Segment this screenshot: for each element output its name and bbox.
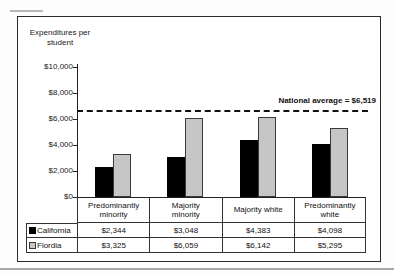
y-axis-title-line1: Expenditures per <box>22 28 98 38</box>
national-average-reference-line <box>77 110 368 112</box>
value-cell: $5,295 <box>294 238 366 253</box>
table-corner-cell <box>26 197 77 223</box>
y-axis-title: Expenditures per student <box>22 28 98 48</box>
category-label-line: Predominantly <box>304 201 355 210</box>
value-cell: $6,142 <box>222 238 294 253</box>
value-cell: $3,325 <box>77 238 149 253</box>
y-tick-mark <box>73 197 77 198</box>
category-cell: Predominantlyminority <box>77 197 149 223</box>
y-tick-mark <box>73 145 77 146</box>
california-bar <box>167 157 185 197</box>
category-cell: Majority white <box>222 197 294 223</box>
value-cell: $3,048 <box>149 223 221 238</box>
california-legend-swatch-icon <box>29 227 36 234</box>
y-tick-label: $8,000 <box>18 88 73 98</box>
y-tick-mark <box>73 93 77 94</box>
data-table: PredominantlyminorityMajorityminorityMaj… <box>26 197 366 253</box>
flordia-bar <box>185 118 203 197</box>
y-axis-title-line2: student <box>22 38 98 48</box>
california-bar <box>240 140 258 197</box>
y-tick-mark <box>73 119 77 120</box>
legend-series-name: California <box>37 226 71 235</box>
category-label-line: Predominantly <box>88 201 139 210</box>
category-label-line: minority <box>100 210 128 219</box>
y-tick-label: $10,000 <box>18 62 73 72</box>
category-cell: Predominantlywhite <box>294 197 366 223</box>
category-label-line: white <box>321 210 340 219</box>
value-cell: $2,344 <box>77 223 149 238</box>
y-tick-label: $6,000 <box>18 114 73 124</box>
national-average-label: National average = $6,519 <box>278 96 376 105</box>
california-bar <box>95 167 113 197</box>
value-cell: $4,383 <box>222 223 294 238</box>
flordia-bar <box>258 117 276 197</box>
y-tick-label: $2,000 <box>18 166 73 176</box>
category-label-line: Majority <box>172 201 200 210</box>
chart-frame: Expenditures per student $10,000$8,000$6… <box>17 16 381 262</box>
flordia-bar <box>330 128 348 197</box>
california-bar <box>312 144 330 197</box>
y-tick-mark <box>73 67 77 68</box>
category-label-line: Majority white <box>234 205 283 214</box>
scan-artifact-mark <box>10 10 43 12</box>
flordia-bar <box>113 154 131 197</box>
y-tick-label: $4,000 <box>18 140 73 150</box>
value-cell: $4,098 <box>294 223 366 238</box>
flordia-legend-cell: Flordia <box>26 238 77 253</box>
category-cell: Majorityminority <box>149 197 221 223</box>
flordia-legend-swatch-icon <box>29 242 36 249</box>
category-label-line: minority <box>172 210 200 219</box>
y-tick-mark <box>73 171 77 172</box>
legend-series-name: Flordia <box>37 241 61 250</box>
value-cell: $6,059 <box>149 238 221 253</box>
california-legend-cell: California <box>26 223 77 238</box>
page: Expenditures per student $10,000$8,000$6… <box>0 0 394 276</box>
plot-area <box>77 67 366 197</box>
page-divider <box>0 268 394 270</box>
